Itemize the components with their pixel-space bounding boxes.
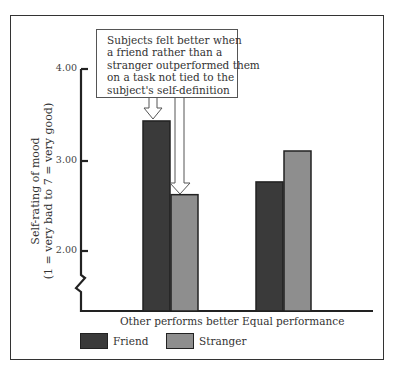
- annotation-line: on a task not tied to the: [107, 71, 233, 83]
- x-category-label: Other performs better: [120, 315, 239, 327]
- y-tick-2: 2.00: [37, 244, 77, 255]
- y-axis-title: Self-rating of mood: [29, 91, 42, 291]
- annotation-line: subject's self-definition: [107, 84, 233, 96]
- annotation-line: a friend rather than a: [107, 46, 233, 58]
- legend-item-friend: Friend: [80, 333, 148, 349]
- legend-swatch-friend: [80, 333, 108, 349]
- y-tick-4: 4.00: [37, 62, 77, 73]
- annotation-callout: Subjects felt better when a friend rathe…: [96, 29, 238, 98]
- y-axis: [76, 69, 373, 311]
- bar-friend: [256, 182, 283, 311]
- annotation-line: Subjects felt better when: [107, 34, 233, 46]
- y-tick-3: 3.00: [37, 154, 77, 165]
- legend-label: Stranger: [199, 335, 246, 347]
- bar-stranger: [284, 151, 311, 311]
- x-category-label: Equal performance: [242, 315, 344, 327]
- y-axis-subtitle: (1 = very bad to 7 = very good): [42, 91, 55, 291]
- bars: [143, 121, 311, 311]
- legend-label: Friend: [113, 335, 148, 347]
- annotation-line: stranger outperformed them: [107, 59, 233, 71]
- bar-friend: [143, 121, 170, 311]
- bar-stranger: [171, 195, 198, 311]
- y-axis-label: Self-rating of mood (1 = very bad to 7 =…: [29, 91, 55, 291]
- legend-swatch-stranger: [166, 333, 194, 349]
- legend-item-stranger: Stranger: [166, 333, 246, 349]
